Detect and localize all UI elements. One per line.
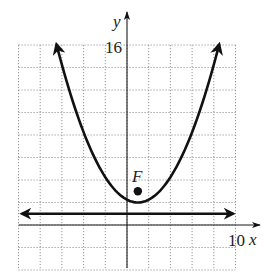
focus-label: F <box>131 167 143 186</box>
x-tick-label: 10 <box>228 231 245 250</box>
y-tick-label: 16 <box>105 38 122 57</box>
x-axis-label: x <box>248 230 257 249</box>
parabola-graph: F y 16 10 x <box>0 0 269 277</box>
focus-point <box>134 187 142 195</box>
y-axis-label: y <box>111 12 121 31</box>
